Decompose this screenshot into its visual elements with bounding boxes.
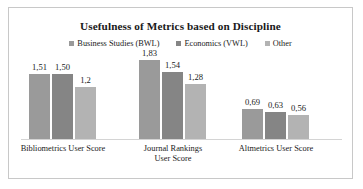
bar-group-bars: 1,83 1,54 1,28 xyxy=(139,8,225,139)
bar xyxy=(185,84,206,139)
category-label: Bibliometrics User Score xyxy=(13,144,113,154)
bar xyxy=(52,74,73,139)
bar-value-label: 0,63 xyxy=(268,101,283,110)
bar-value-label: 1,50 xyxy=(55,63,70,72)
chart-frame: Usefulness of Metrics based on Disciplin… xyxy=(8,7,353,179)
bar-group: 1,51 1,50 1,2 Bibliometrics User Score xyxy=(29,8,115,178)
bar-group: 1,83 1,54 1,28 Journal Rankings User Sco… xyxy=(139,8,225,178)
bar-group-bars: 1,51 1,50 1,2 xyxy=(29,8,115,139)
bar-value-label: 1,2 xyxy=(80,76,91,85)
plot-area: 1,51 1,50 1,2 Bibliometrics User Score 1… xyxy=(9,8,352,178)
bar-value-label: 1,83 xyxy=(142,49,157,58)
bar xyxy=(29,74,50,139)
bar-value-label: 0,69 xyxy=(245,98,260,107)
bar-value-label: 1,54 xyxy=(165,61,180,70)
bar xyxy=(162,72,183,139)
category-label: Altmetrics User Score xyxy=(230,144,322,154)
bar xyxy=(139,60,160,139)
category-label: Journal Rankings User Score xyxy=(138,144,208,165)
bar xyxy=(265,112,286,139)
bar-group-bars: 0,69 0,63 0,56 xyxy=(242,8,328,139)
bar xyxy=(242,109,263,139)
bar xyxy=(75,87,96,139)
bar-group: 0,69 0,63 0,56 Altmetrics User Score xyxy=(242,8,328,178)
bar-value-label: 1,28 xyxy=(188,73,203,82)
bar-value-label: 1,51 xyxy=(32,63,47,72)
bar xyxy=(288,115,309,139)
bar-value-label: 0,56 xyxy=(291,104,306,113)
